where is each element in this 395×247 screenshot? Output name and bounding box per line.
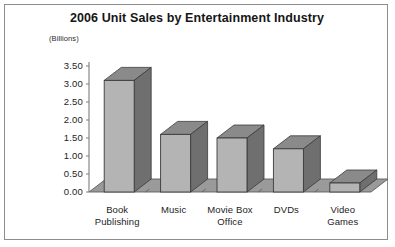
x-axis-category-line: Video [305,204,381,216]
y-axis-tick-label: 1.50 [41,132,83,143]
x-axis-category-line: Games [305,216,381,228]
y-axis-tick-label: 0.00 [41,186,83,197]
bar-3 [217,125,264,192]
bar-2 [161,121,208,192]
y-axis-tick-label: 3.50 [41,60,83,71]
y-axis-tick-label: 1.00 [41,150,83,161]
x-axis-category-line: Publishing [79,216,155,228]
y-axis-tick-label: 2.50 [41,96,83,107]
x-axis-category-label: VideoGames [305,204,381,227]
y-axis-tick-label: 0.50 [41,168,83,179]
chart-frame: 2006 Unit Sales by Entertainment Industr… [4,4,388,240]
bar-1 [104,67,151,192]
x-axis-category-line: Office [192,216,268,228]
bar-4 [273,136,320,192]
y-axis-tick-label: 3.00 [41,78,83,89]
y-axis-tick-label: 2.00 [41,114,83,125]
